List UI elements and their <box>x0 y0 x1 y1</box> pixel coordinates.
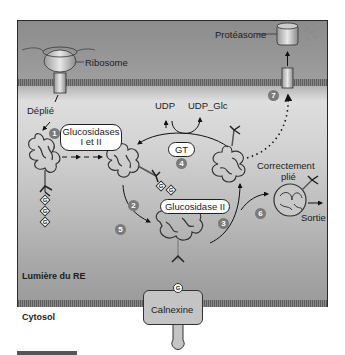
misfolded-protein-icon <box>212 146 245 182</box>
correctly-folded-label-line2: plié <box>281 172 296 182</box>
glucosidases-label-line2: I et II <box>61 137 121 147</box>
calnexin-anchor-icon <box>172 325 184 349</box>
udp-label: UDP <box>155 101 175 111</box>
step-badge-3: 3 <box>218 218 229 229</box>
proteasome-label: Protéasome <box>215 30 266 40</box>
unfolded-label: Déplié <box>27 106 54 116</box>
step-badge-6: 6 <box>255 208 266 219</box>
glucosidases-i-ii-box: Glucosidases I et II <box>60 124 122 151</box>
glucosidase-ii-box: Glucosidase II <box>160 199 230 214</box>
cytosol-label: Cytosol <box>22 313 55 322</box>
retrotranslocon-icon <box>282 68 293 88</box>
gt-box: GT <box>168 142 195 157</box>
translocon-icon <box>54 73 66 93</box>
peptide-fragments-icon <box>304 28 317 41</box>
step-badge-1: 1 <box>49 128 60 139</box>
exit-label: Sortie <box>301 213 326 223</box>
step-badge-5: 5 <box>115 224 126 235</box>
step-badge-4: 4 <box>176 158 187 169</box>
step-badge-7: 7 <box>268 90 279 101</box>
step-badge-2: 2 <box>128 200 139 211</box>
udp-glc-label: UDP_Glc <box>188 101 228 111</box>
calnexin-label: Calnexine <box>151 305 193 315</box>
ribosome-label: Ribosome <box>85 58 128 68</box>
scale-bar <box>17 351 77 355</box>
glucose-marker-calnexin: G <box>173 283 183 293</box>
ribosome-icon <box>44 50 76 72</box>
correctly-folded-label-line1: Correctement <box>257 161 315 171</box>
unfolded-protein-icon <box>29 134 60 173</box>
er-lumen-label: Lumière du RE <box>22 272 86 281</box>
